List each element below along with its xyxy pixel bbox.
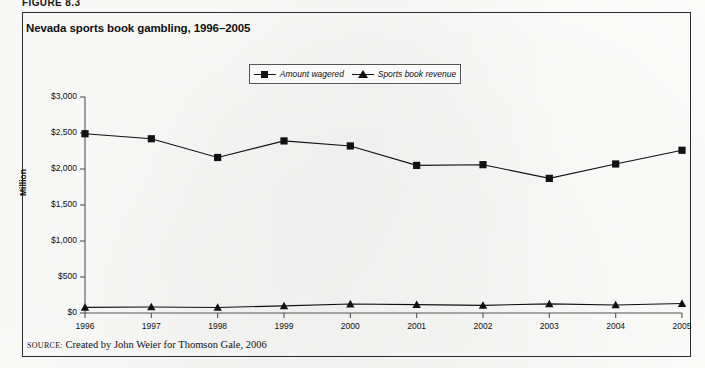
x-tick-label: 2005 bbox=[662, 321, 702, 331]
x-tick-label: 2002 bbox=[463, 321, 503, 331]
y-tick-label: $3,000 bbox=[31, 91, 77, 101]
y-tick-label: $1,000 bbox=[31, 235, 77, 245]
x-tick-label: 1999 bbox=[264, 321, 304, 331]
source-keyword: SOURCE: bbox=[27, 341, 63, 350]
plot-area bbox=[0, 0, 705, 368]
x-tick-label: 1996 bbox=[65, 321, 105, 331]
x-tick-label: 2000 bbox=[330, 321, 370, 331]
chart-canvas bbox=[0, 0, 705, 368]
y-tick-label: $2,500 bbox=[31, 127, 77, 137]
x-tick-label: 2003 bbox=[529, 321, 569, 331]
y-tick-label: $2,000 bbox=[31, 163, 77, 173]
x-tick-label: 1997 bbox=[131, 321, 171, 331]
source-note: SOURCE: Created by John Weier for Thomso… bbox=[27, 339, 267, 350]
y-tick-label: $1,500 bbox=[31, 199, 77, 209]
y-tick-label: $500 bbox=[31, 271, 77, 281]
y-tick-label: $0 bbox=[31, 307, 77, 317]
source-text: Created by John Weier for Thomson Gale, … bbox=[63, 339, 267, 350]
x-tick-label: 2001 bbox=[397, 321, 437, 331]
x-tick-label: 1998 bbox=[198, 321, 238, 331]
x-tick-label: 2004 bbox=[596, 321, 636, 331]
